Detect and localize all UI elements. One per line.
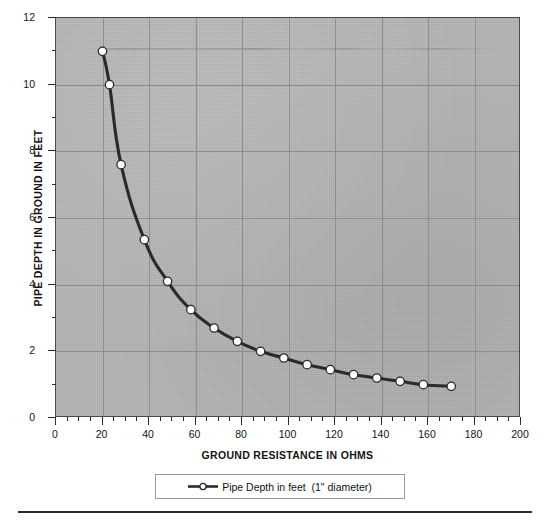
y-tick-major (48, 217, 56, 218)
x-tick-label: 120 (325, 428, 343, 440)
data-point (373, 374, 381, 382)
x-tick-label: 160 (418, 428, 436, 440)
y-tick-label: 10 (23, 78, 35, 90)
x-tick-major (520, 417, 521, 425)
legend-line-marker-icon (188, 481, 218, 492)
x-tick-label: 100 (279, 428, 297, 440)
legend-entry-pipe-depth: Pipe Depth in feet (1" diameter) (188, 481, 372, 493)
y-tick-major (48, 17, 56, 18)
data-point (349, 370, 357, 378)
y-tick-minor (52, 117, 56, 118)
x-tick-label: 80 (235, 428, 247, 440)
series-line-pipe-depth (103, 51, 452, 386)
y-tick-label: 0 (29, 411, 35, 423)
x-tick-label: 0 (52, 428, 58, 440)
y-tick-label: 12 (23, 11, 35, 23)
x-tick-label: 20 (96, 428, 108, 440)
x-tick-label: 140 (372, 428, 390, 440)
data-point (140, 235, 148, 243)
data-point (187, 305, 195, 313)
x-axis-title: GROUND RESISTANCE IN OHMS (55, 449, 520, 461)
y-tick-minor (52, 184, 56, 185)
legend-label: Pipe Depth in feet (1" diameter) (222, 481, 372, 493)
data-point (326, 365, 334, 373)
data-point (98, 47, 106, 55)
y-tick-major (48, 150, 56, 151)
data-point (210, 324, 218, 332)
y-tick-minor (52, 50, 56, 51)
x-tick-label: 200 (511, 428, 529, 440)
data-point (256, 347, 264, 355)
plot-area (55, 17, 520, 417)
data-point (396, 377, 404, 385)
y-tick-minor (52, 384, 56, 385)
y-tick-major (48, 350, 56, 351)
y-tick-minor (52, 317, 56, 318)
series-layer (56, 18, 520, 417)
y-tick-major (48, 84, 56, 85)
y-axis-tick-labels: 024681012 (0, 17, 47, 417)
x-tick-label: 180 (465, 428, 483, 440)
chart-legend: Pipe Depth in feet (1" diameter) (155, 474, 405, 499)
data-point (303, 360, 311, 368)
y-tick-label: 8 (29, 144, 35, 156)
y-axis-ticks (47, 17, 56, 417)
data-point (163, 277, 171, 285)
y-tick-label: 4 (29, 278, 35, 290)
x-tick-label: 60 (189, 428, 201, 440)
bottom-divider-rule (18, 511, 532, 513)
data-point (447, 382, 455, 390)
data-point (419, 380, 427, 388)
data-point (280, 354, 288, 362)
chart-figure: PIPE DEPTH IN GROUND IN FEET 024681012 0… (0, 0, 550, 522)
y-tick-major (48, 284, 56, 285)
series-markers-pipe-depth (98, 47, 455, 390)
x-tick-label: 40 (142, 428, 154, 440)
data-point (117, 160, 125, 168)
y-tick-label: 6 (29, 211, 35, 223)
y-tick-minor (52, 250, 56, 251)
y-tick-label: 2 (29, 344, 35, 356)
x-axis-tick-labels: 020406080100120140160180200 (55, 417, 520, 439)
data-point (233, 337, 241, 345)
data-point (105, 80, 113, 88)
